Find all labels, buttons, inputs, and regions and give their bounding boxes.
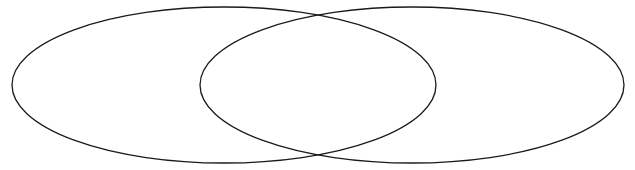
- venn-diagram: [0, 0, 635, 170]
- venn-diagram-canvas: [0, 0, 635, 170]
- right-set-ellipse: [200, 7, 624, 163]
- left-set-ellipse: [12, 7, 436, 163]
